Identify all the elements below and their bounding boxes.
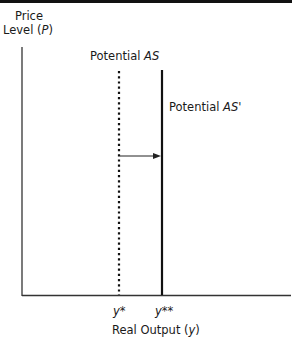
y-axis-label-text: Level ( <box>3 23 42 37</box>
x-axis-label: Real Output (y) <box>112 323 200 337</box>
potential-as-prime-label: Potential AS' <box>169 100 241 114</box>
y-axis-label-suffix: ) <box>48 23 53 37</box>
y-axis-label: Price Level (P) <box>9 9 49 37</box>
potential-as-prime-label-suffix: ' <box>238 100 241 114</box>
potential-as-label-var: AS <box>144 49 159 63</box>
x-axis-label-text: Real Output ( <box>112 323 189 337</box>
potential-as-label-text: Potential <box>90 49 144 63</box>
y-axis-label-line2: Level (P) <box>3 23 49 37</box>
tick-label-y-star: y* <box>113 304 126 318</box>
potential-as-prime-label-text: Potential <box>169 100 223 114</box>
potential-as-label: Potential AS <box>90 49 159 63</box>
arrow-head-icon <box>153 153 161 159</box>
x-axis-label-suffix: ) <box>195 323 200 337</box>
potential-as-prime-label-var: AS <box>223 100 238 114</box>
tick-label-y-double-star: y** <box>155 304 173 318</box>
y-axis-label-line1: Price <box>9 9 49 23</box>
